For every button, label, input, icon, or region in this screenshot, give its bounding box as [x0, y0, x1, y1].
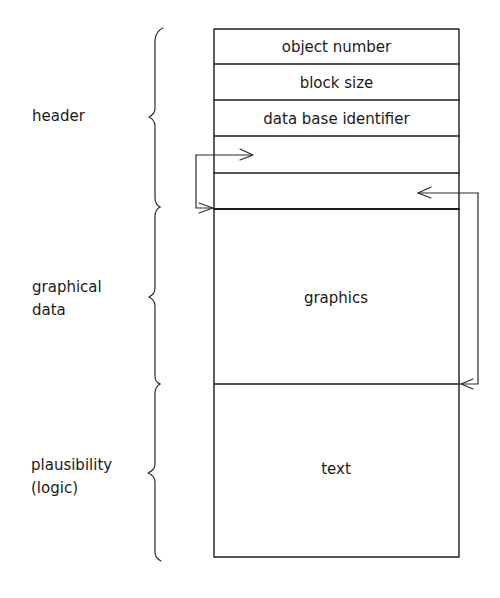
group-label-header: header: [32, 107, 86, 125]
section-graphics: graphics: [304, 289, 368, 307]
section-text: text: [321, 460, 351, 478]
brace-plausibility: [148, 384, 161, 561]
cell-block-size: block size: [300, 74, 374, 92]
pointer-to-text-arrow: [418, 187, 478, 389]
cell-object-number: object number: [282, 38, 392, 56]
group-label-data: data: [32, 301, 66, 319]
brace-header: [149, 28, 163, 207]
pointer-to-graphics-arrow: [196, 149, 253, 213]
data-block-diagram: header graphical data plausibility (logi…: [0, 0, 500, 598]
brace-graphical-data: [149, 207, 160, 384]
group-label-graphical: graphical: [32, 278, 102, 296]
group-label-logic: (logic): [31, 479, 78, 497]
group-label-plausibility: plausibility: [31, 456, 112, 474]
cell-data-base-identifier: data base identifier: [263, 110, 410, 128]
